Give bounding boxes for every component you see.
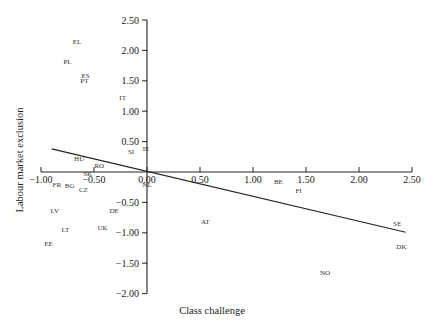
data-point-labels: ELPLESPTITIESIHUROSKFRBGCZNLLVDELTUKEEAT… <box>44 38 406 277</box>
y-tick-label: −2.00 <box>116 288 139 299</box>
point-label-no: NO <box>320 269 330 277</box>
point-label-it: IT <box>119 94 126 102</box>
x-tick-label: 1.00 <box>244 174 262 185</box>
point-label-fi: FI <box>295 187 302 195</box>
point-label-pl: PL <box>63 58 71 66</box>
point-label-se: SE <box>393 220 401 228</box>
x-tick-label: 2.00 <box>350 174 368 185</box>
point-label-bg: BG <box>65 182 75 190</box>
x-tick-label: 2.50 <box>403 174 421 185</box>
point-label-uk: UK <box>97 224 107 232</box>
point-label-cz: CZ <box>79 186 88 194</box>
point-label-ie: IE <box>143 145 150 153</box>
y-tick-label: −1.50 <box>116 258 139 269</box>
point-label-lv: LV <box>50 207 59 215</box>
point-label-fr: FR <box>53 181 62 189</box>
x-tick-label: 1.50 <box>297 174 315 185</box>
point-label-at: AT <box>201 218 210 226</box>
scatter-chart: −1.00−0.500.000.501.001.502.002.50 2.502… <box>0 0 435 330</box>
y-tick-label: 1.50 <box>122 75 140 86</box>
point-label-hu: HU <box>74 155 84 163</box>
point-label-sk: SK <box>83 170 92 178</box>
y-tick-label: −0.50 <box>116 197 139 208</box>
regression-line <box>52 149 406 232</box>
point-label-si: SI <box>128 148 135 156</box>
x-tick-label: −1.00 <box>29 174 52 185</box>
y-tick-label: 0.50 <box>122 136 140 147</box>
point-label-de: DE <box>109 207 118 215</box>
y-tick-label: 2.00 <box>122 45 140 56</box>
point-label-dk: DK <box>396 243 406 251</box>
point-label-nl: NL <box>142 181 151 189</box>
point-label-pt: PT <box>80 77 89 85</box>
point-label-lt: LT <box>61 226 70 234</box>
point-label-ro: RO <box>94 162 104 170</box>
point-label-be: BE <box>274 178 283 186</box>
y-axis-ticks: 2.502.001.501.000.50−0.50−1.00−1.50−2.00 <box>116 15 147 300</box>
point-label-el: EL <box>73 38 82 46</box>
y-tick-label: 1.00 <box>122 106 140 117</box>
x-axis-title: Class challenge <box>179 305 245 316</box>
point-label-ee: EE <box>44 240 53 248</box>
y-axis-title: Labour market exclusion <box>14 107 25 213</box>
axes <box>41 20 412 294</box>
y-tick-label: 2.50 <box>122 15 140 26</box>
y-tick-label: −1.00 <box>116 227 139 238</box>
